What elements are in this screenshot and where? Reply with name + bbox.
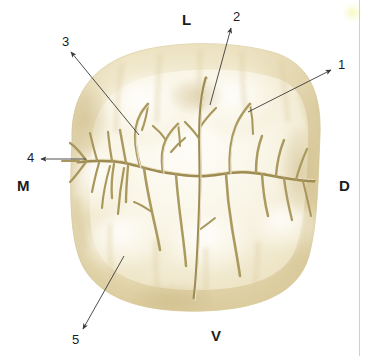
highlighter-mark: [347, 7, 358, 18]
tooth-occlusal-figure: 1 2 3 4 5 L M D V: [0, 0, 370, 356]
orientation-marker-distal: D: [339, 178, 350, 193]
leader-line-2: [210, 28, 231, 105]
orientation-marker-mesial: M: [17, 178, 30, 193]
orientation-marker-vestibular: V: [211, 328, 221, 343]
callout-label-2: 2: [233, 10, 240, 23]
callout-leader-lines: [0, 0, 370, 356]
callout-label-4: 4: [27, 151, 34, 164]
leader-line-5: [83, 256, 124, 329]
callout-label-3: 3: [62, 35, 69, 48]
page-edge-line: [359, 0, 360, 356]
leader-line-1: [248, 70, 331, 112]
leader-line-3: [71, 52, 139, 135]
callout-label-1: 1: [338, 58, 345, 71]
orientation-marker-lingual: L: [182, 12, 191, 27]
callout-label-5: 5: [72, 333, 79, 346]
